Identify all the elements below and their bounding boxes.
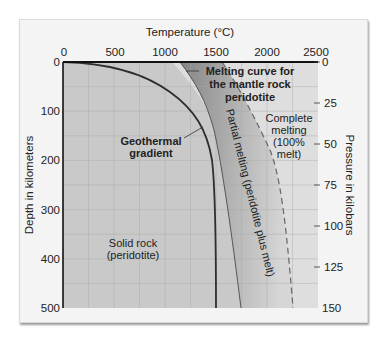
svg-text:0: 0: [322, 56, 328, 68]
solid-rock-label: Solid rock (peridotite): [107, 237, 160, 261]
svg-text:peridotite: peridotite: [225, 91, 275, 103]
svg-text:(peridotite): (peridotite): [107, 249, 160, 261]
svg-text:Solid rock: Solid rock: [109, 237, 158, 249]
svg-text:the mantle rock: the mantle rock: [209, 78, 291, 90]
x-tick-labels: 0 500 1000 1500 2000 2500: [61, 46, 329, 58]
svg-text:Geothermal: Geothermal: [120, 135, 181, 147]
svg-text:2000: 2000: [254, 46, 280, 58]
svg-text:125: 125: [324, 261, 343, 273]
phase-diagram: 0 500 1000 1500 2000 2500 Temperature (°…: [0, 0, 383, 341]
geothermal-label: Geothermal gradient: [120, 135, 181, 159]
svg-text:1000: 1000: [152, 46, 178, 58]
svg-text:100: 100: [41, 105, 60, 117]
svg-text:200: 200: [41, 154, 60, 166]
left-axis-title: Depth in kilometers: [23, 136, 35, 235]
svg-text:100: 100: [324, 220, 343, 232]
svg-text:melting: melting: [271, 124, 306, 136]
svg-text:500: 500: [105, 46, 124, 58]
svg-text:50: 50: [324, 138, 337, 150]
y-tick-labels: 0 100 200 300 400 500: [41, 56, 60, 314]
svg-text:300: 300: [41, 204, 60, 216]
svg-text:400: 400: [41, 253, 60, 265]
svg-text:Melting curve for: Melting curve for: [206, 65, 295, 77]
svg-text:75: 75: [324, 179, 337, 191]
svg-text:0: 0: [61, 46, 67, 58]
svg-text:gradient: gradient: [129, 147, 173, 159]
svg-text:150: 150: [322, 302, 341, 314]
y2-tick-labels: 0 25 50 75 100 125 150: [322, 56, 343, 314]
svg-text:melt): melt): [277, 148, 301, 160]
svg-text:1500: 1500: [203, 46, 229, 58]
svg-text:25: 25: [324, 97, 337, 109]
svg-text:0: 0: [54, 56, 60, 68]
svg-text:Complete: Complete: [265, 112, 312, 124]
svg-text:(100%: (100%: [273, 136, 305, 148]
right-axis-title: Pressure in kilobars: [344, 135, 356, 236]
svg-text:500: 500: [41, 302, 60, 314]
top-axis-title: Temperature (°C): [146, 26, 234, 38]
